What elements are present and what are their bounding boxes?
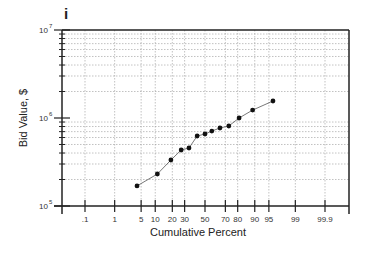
data-point: [195, 134, 200, 139]
y-tick-exponent: 5: [49, 199, 53, 205]
x-tick-label: 10: [151, 215, 160, 224]
data-point: [271, 99, 276, 104]
data-point: [226, 124, 231, 129]
x-tick-label: 99: [291, 215, 300, 224]
x-tick-label: 95: [264, 215, 273, 224]
data-point: [203, 132, 208, 137]
data-point: [135, 184, 140, 189]
x-tick-label: 5: [139, 215, 144, 224]
x-tick-label: 99.9: [317, 215, 333, 224]
data-point: [218, 126, 223, 131]
data-point: [237, 116, 242, 121]
y-tick-label: 10: [39, 114, 48, 123]
data-point: [187, 146, 192, 151]
x-tick-label: 30: [180, 215, 189, 224]
y-tick-label: 10: [39, 26, 48, 35]
x-tick-label: 20: [168, 215, 177, 224]
x-tick-label: 90: [250, 215, 259, 224]
x-tick-label: 50: [201, 215, 210, 224]
x-tick-label: 80: [233, 215, 242, 224]
chart-plot: .11510203050708090959999.9105106107: [0, 0, 366, 255]
data-point: [250, 108, 255, 113]
x-tick-label: 70: [221, 215, 230, 224]
data-point: [179, 148, 184, 153]
y-tick-exponent: 6: [49, 111, 53, 117]
data-point: [155, 172, 160, 177]
data-point: [169, 158, 174, 163]
data-point: [209, 129, 214, 134]
y-tick-label: 10: [39, 202, 48, 211]
x-tick-label: 1: [112, 215, 117, 224]
x-tick-label: .1: [82, 215, 89, 224]
y-tick-exponent: 7: [49, 23, 53, 29]
